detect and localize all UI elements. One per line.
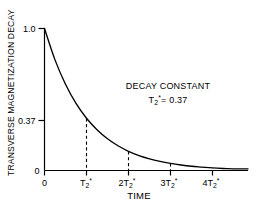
decay-curve — [45, 29, 249, 169]
decay-constant-annotation: DECAY CONSTANT T2*= 0.37 — [126, 81, 211, 106]
x-tick-label-t1: T2* — [80, 177, 92, 190]
x-tick-label-t3: 3T2* — [161, 177, 178, 190]
x-tick-t2-base: 2T — [119, 178, 130, 188]
x-tick-t4-base: 4T — [203, 178, 214, 188]
dropline-group — [87, 118, 171, 170]
x-tick-t1-sup: * — [89, 177, 92, 184]
x-axis-title: TIME — [127, 190, 151, 201]
svg-text:3T2*: 3T2* — [161, 177, 178, 190]
y-tick-marks — [39, 29, 45, 121]
y-tick-label-top: 1.0 — [23, 24, 36, 34]
y-axis-title: TRANSVERSE MAGNETIZATION DECAY — [6, 9, 16, 176]
y-tick-label-mid: 0.37 — [18, 116, 36, 126]
decay-curve-figure: 1.0 0.37 0 0 T2* 2T2* 3T2* 4T2* TIME — [0, 0, 258, 213]
y-tick-label-bottom: 0 — [34, 166, 39, 176]
x-tick-t4-sup: * — [217, 177, 220, 184]
svg-text:T2*: T2* — [80, 177, 92, 190]
x-tick-t3-base: 3T — [161, 178, 172, 188]
x-tick-marks — [45, 171, 213, 176]
annotation-line-2: T2*= 0.37 — [148, 94, 187, 107]
x-tick-label-t2: 2T2* — [119, 177, 136, 190]
x-tick-label-t4: 4T2* — [203, 177, 220, 190]
chart-canvas: 1.0 0.37 0 0 T2* 2T2* 3T2* 4T2* TIME — [0, 0, 258, 213]
svg-text:4T2*: 4T2* — [203, 177, 220, 190]
x-tick-label-0: 0 — [42, 178, 47, 188]
axes-group — [45, 28, 249, 171]
x-tick-t3-sup: * — [175, 177, 178, 184]
annotation-line-1: DECAY CONSTANT — [126, 81, 211, 91]
annotation-value: = 0.37 — [161, 95, 187, 105]
svg-text:2T2*: 2T2* — [119, 177, 136, 190]
x-tick-t2-sup: * — [133, 177, 136, 184]
